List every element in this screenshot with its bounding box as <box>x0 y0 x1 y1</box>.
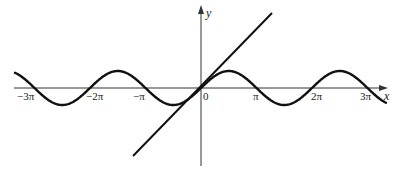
y-axis-arrow-icon <box>198 5 204 14</box>
tick-label-neg3pi: −3π <box>17 90 35 102</box>
function-graph: y x x −3π −2π −π 0 π 2π 3π <box>0 0 400 175</box>
tick-label-zero: 0 <box>203 90 209 102</box>
y-axis-label: y <box>205 6 212 20</box>
tick-label-3pi: 3π <box>360 90 372 102</box>
tick-label-2pi: 2π <box>311 90 323 102</box>
x-axis-label: x <box>383 89 390 103</box>
tick-label-pi: π <box>253 90 259 102</box>
tick-label-negpi: −π <box>133 90 145 102</box>
tick-label-neg2pi: −2π <box>86 90 104 102</box>
